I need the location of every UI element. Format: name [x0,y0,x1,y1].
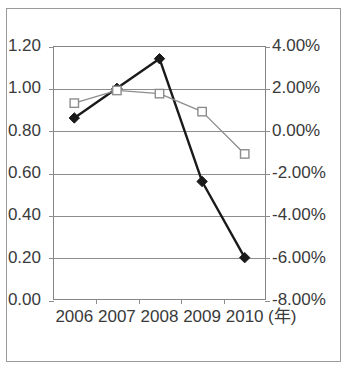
data-point-marker-square [113,86,121,94]
series-layer [0,0,350,369]
figure-root: ――― 0.000.200.400.600.801.001.20 -8.00%-… [0,0,350,369]
data-point-marker-diamond [240,252,250,262]
data-point-marker-diamond [197,176,207,186]
data-point-marker-square [155,89,163,97]
dual-axis-line-chart: 0.000.200.400.600.801.001.20 -8.00%-6.00… [0,0,350,369]
series-line-filled-diamond [74,59,244,258]
data-point-marker-square [70,99,78,107]
data-point-marker-square [198,107,206,115]
data-point-marker-square [241,150,249,158]
